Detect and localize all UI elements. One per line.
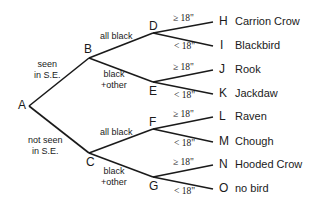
node-l: L	[219, 109, 226, 123]
edge-label-seen: seen in S.E.	[34, 59, 61, 81]
leaf-no-bird: no bird	[235, 182, 269, 194]
node-e: E	[149, 84, 157, 98]
leaf-hooded-crow: Hooded Crow	[235, 158, 302, 170]
size-label-lt18-g: < 18"	[174, 186, 195, 196]
size-label-ge18-d: ≥ 18"	[173, 13, 194, 23]
edge-label-all-black-top: all black	[100, 31, 133, 42]
leaf-carrion-crow: Carrion Crow	[235, 15, 300, 27]
size-label-ge18-g: ≥ 18"	[173, 157, 194, 167]
edge-label-not-seen: not seen in S.E.	[28, 135, 63, 157]
size-label-ge18-f: ≥ 18"	[173, 109, 194, 119]
node-j: J	[219, 62, 225, 76]
size-label-lt18-e: < 18"	[174, 90, 195, 100]
edge-label-black-other-bottom: black +other	[101, 166, 127, 188]
node-c: C	[86, 155, 95, 169]
node-m: M	[219, 134, 229, 148]
leaf-raven: Raven	[235, 110, 267, 122]
node-h: H	[219, 14, 228, 28]
edge-label-black-other-top: black +other	[101, 69, 127, 91]
leaf-blackbird: Blackbird	[235, 39, 280, 51]
node-i: I	[220, 38, 223, 52]
leaf-chough: Chough	[235, 135, 274, 147]
node-d: D	[149, 19, 158, 33]
leaf-jackdaw: Jackdaw	[235, 87, 278, 99]
edge-label-all-black-bottom: all black	[100, 127, 133, 138]
node-n: N	[219, 157, 228, 171]
size-label-ge18-e: ≥ 18"	[173, 62, 194, 72]
size-label-lt18-d: < 18"	[174, 41, 195, 51]
leaf-rook: Rook	[235, 63, 261, 75]
node-g: G	[149, 179, 158, 193]
node-b: B	[84, 42, 92, 56]
node-f: F	[149, 115, 156, 129]
node-a: A	[18, 98, 26, 112]
node-o: O	[219, 181, 228, 195]
size-label-lt18-f: < 18"	[174, 138, 195, 148]
node-k: K	[219, 86, 227, 100]
